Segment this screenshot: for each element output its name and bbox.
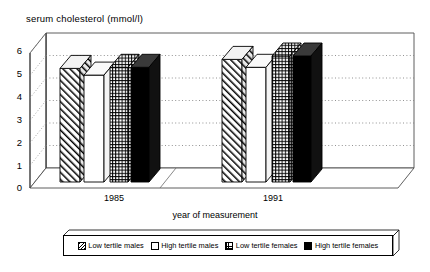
chart-legend: Low tertile males High tertile males Low… bbox=[63, 235, 393, 256]
chart-plot-svg bbox=[0, 0, 430, 272]
legend-label-high-tertile-males: High tertile males bbox=[161, 241, 218, 250]
legend-label-low-tertile-males: Low tertile males bbox=[88, 241, 143, 250]
cross-hatch-swatch-icon bbox=[225, 242, 233, 250]
white-swatch-icon bbox=[151, 242, 159, 250]
bar-1991-high-tertile-females bbox=[293, 43, 322, 182]
legend-item-high-tertile-females: High tertile females bbox=[304, 241, 378, 250]
legend-item-low-tertile-females: Low tertile females bbox=[225, 241, 297, 250]
legend-item-low-tertile-males: Low tertile males bbox=[78, 241, 144, 250]
legend-item-high-tertile-males: High tertile males bbox=[151, 241, 219, 250]
solid-black-swatch-icon bbox=[304, 242, 312, 250]
chart-container: serum cholesterol (mmol/l) 0 1 2 3 4 5 6… bbox=[0, 0, 430, 272]
diagonal-hatch-swatch-icon bbox=[78, 242, 86, 250]
legend-label-low-tertile-females: Low tertile females bbox=[236, 241, 298, 250]
legend-label-high-tertile-females: High tertile females bbox=[315, 241, 378, 250]
bar-1985-high-tertile-females bbox=[131, 54, 160, 182]
